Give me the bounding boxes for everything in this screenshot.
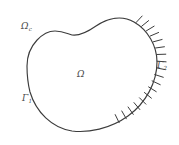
boundary-hatch-mark xyxy=(115,115,119,123)
boundary-hatch-mark xyxy=(146,26,154,31)
boundary-one-label: Γ1 xyxy=(22,94,32,103)
interior-domain-symbol: Ω xyxy=(77,69,84,79)
domain-boundary-diagram: Ωc Ω Γ1 Γ2 xyxy=(0,0,179,145)
interior-domain-label: Ω xyxy=(77,70,84,79)
domain-outline-path xyxy=(27,18,157,131)
boundary-two-subscript: 2 xyxy=(163,65,167,71)
boundary-one-subscript: 1 xyxy=(28,98,32,104)
boundary-hatch-mark xyxy=(150,32,158,36)
boundary-hatch-mark xyxy=(156,47,165,48)
notch-subdomain-label: Ωc xyxy=(21,22,32,31)
boundary-hatch-mark xyxy=(142,21,149,27)
boundary-two-label: Γ2 xyxy=(157,61,167,70)
boundary-hatch-mark xyxy=(122,111,127,119)
boundary-hatch-mark xyxy=(153,39,162,41)
boundary-hatch-mark xyxy=(136,16,142,23)
boundary-hatch-mark xyxy=(155,75,164,78)
notch-subdomain-symbol: Ω xyxy=(21,21,28,31)
notch-subdomain-subscript: c xyxy=(29,26,32,32)
